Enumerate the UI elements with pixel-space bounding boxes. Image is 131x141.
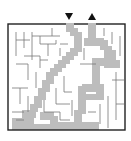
maze-diagram (0, 0, 131, 141)
entrance-down-arrow-icon (65, 13, 73, 20)
exit-up-arrow-icon (88, 13, 96, 20)
